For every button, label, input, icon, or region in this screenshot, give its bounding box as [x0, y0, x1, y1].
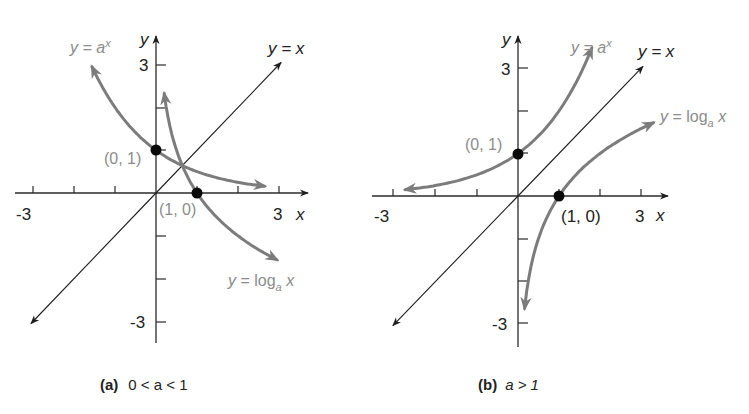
exponential-curve: [92, 67, 265, 186]
label-identity: y = x: [267, 39, 305, 58]
x-axis-label: x: [655, 206, 665, 225]
panel-a: y x -3 3 3 -3 (0, 1) (1, 0) y = ax y = x…: [15, 30, 308, 393]
point-label-0-1: (0, 1): [104, 150, 141, 167]
point-1-0: [554, 191, 565, 202]
point-label-0-1: (0, 1): [465, 136, 502, 153]
y-axis: [156, 36, 166, 343]
exponential-curve: [405, 48, 592, 190]
x-tick-label-3: 3: [273, 205, 282, 224]
label-exponential: y = ax: [570, 37, 612, 56]
y-tick-label-3: 3: [139, 56, 148, 75]
label-exponential: y = ax: [69, 37, 111, 56]
label-logarithmic: y = loga x: [227, 272, 295, 293]
label-logarithmic: y = loga x: [659, 108, 727, 129]
caption-a: (a)0 < a < 1: [100, 376, 188, 393]
figure: y x -3 3 3 -3 (0, 1) (1, 0) y = ax y = x…: [0, 0, 749, 414]
point-0-1: [151, 145, 162, 156]
y-axis-label: y: [501, 30, 512, 49]
y-tick-label-neg3: -3: [492, 315, 507, 334]
label-identity: y = x: [637, 42, 675, 61]
x-tick-label-neg3: -3: [374, 207, 389, 226]
x-tick-label-3: 3: [635, 207, 644, 226]
y-tick-label-neg3: -3: [130, 313, 145, 332]
caption-b: (b)a > 1: [478, 376, 539, 393]
point-0-1: [513, 149, 524, 160]
x-tick-label-neg3: -3: [16, 205, 31, 224]
point-1-0: [192, 188, 203, 199]
point-label-1-0: (1, 0): [159, 201, 196, 218]
x-axis: [372, 189, 668, 196]
logarithmic-curve: [164, 94, 277, 260]
point-label-1-0: (1, 0): [561, 207, 601, 226]
y-tick-label-3: 3: [501, 60, 510, 79]
x-axis-label: x: [295, 205, 305, 224]
panel-b: y x -3 3 3 -3 (0, 1) (1, 0) y = ax y = x…: [372, 30, 727, 393]
y-axis-label: y: [139, 30, 150, 49]
x-ticks: [393, 189, 641, 196]
